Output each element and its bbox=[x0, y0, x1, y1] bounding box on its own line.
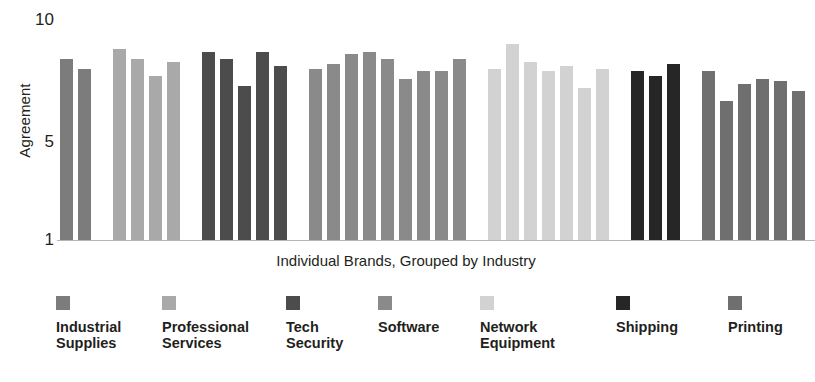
x-axis-title: Individual Brands, Grouped by Industry bbox=[0, 252, 812, 269]
legend-item[interactable]: Industrial Supplies bbox=[56, 296, 121, 351]
bar bbox=[345, 54, 358, 240]
bar bbox=[702, 71, 715, 240]
legend-color-swatch bbox=[56, 296, 70, 310]
bar bbox=[309, 69, 322, 240]
bar bbox=[238, 86, 251, 240]
legend-color-swatch bbox=[616, 296, 630, 310]
bar bbox=[220, 59, 233, 240]
y-tick-label-5: 5 bbox=[28, 132, 54, 152]
bar bbox=[756, 79, 769, 240]
bar bbox=[453, 59, 466, 240]
bar bbox=[774, 81, 787, 240]
legend-color-swatch bbox=[286, 296, 300, 310]
legend-item[interactable]: Professional Services bbox=[162, 296, 249, 351]
bar bbox=[202, 52, 215, 240]
x-axis-baseline bbox=[57, 240, 815, 241]
legend-item[interactable]: Printing bbox=[728, 296, 783, 335]
legend-item-label: Shipping bbox=[616, 319, 678, 335]
y-tick-label-10: 10 bbox=[28, 10, 54, 30]
bar bbox=[488, 69, 501, 240]
bar bbox=[560, 66, 573, 240]
legend-item-label: Software bbox=[378, 319, 439, 335]
legend-item-label: Printing bbox=[728, 319, 783, 335]
plot-area bbox=[60, 20, 812, 240]
bar bbox=[596, 69, 609, 240]
bar bbox=[792, 91, 805, 240]
bar bbox=[506, 44, 519, 240]
bar bbox=[363, 52, 376, 240]
legend-item[interactable]: Network Equipment bbox=[480, 296, 555, 351]
bar bbox=[524, 62, 537, 240]
bar bbox=[256, 52, 269, 240]
bar bbox=[131, 59, 144, 240]
bar bbox=[327, 64, 340, 240]
bar bbox=[542, 71, 555, 240]
bar bbox=[399, 79, 412, 240]
bar bbox=[274, 66, 287, 240]
bar bbox=[578, 88, 591, 240]
bar bbox=[78, 69, 91, 240]
bar bbox=[167, 62, 180, 240]
legend-color-swatch bbox=[480, 296, 494, 310]
chart-legend: Industrial SuppliesProfessional Services… bbox=[56, 296, 812, 376]
legend-item-label: Tech Security bbox=[286, 319, 343, 351]
bar bbox=[667, 64, 680, 240]
y-axis-title: Agreement bbox=[10, 0, 38, 240]
legend-item-label: Professional Services bbox=[162, 319, 249, 351]
bar bbox=[381, 59, 394, 240]
legend-item[interactable]: Software bbox=[378, 296, 439, 335]
legend-color-swatch bbox=[162, 296, 176, 310]
bar bbox=[738, 84, 751, 240]
legend-item-label: Network Equipment bbox=[480, 319, 555, 351]
legend-color-swatch bbox=[378, 296, 392, 310]
bar bbox=[435, 71, 448, 240]
legend-item[interactable]: Shipping bbox=[616, 296, 678, 335]
bar bbox=[60, 59, 73, 240]
bar bbox=[720, 101, 733, 240]
bar bbox=[649, 76, 662, 240]
bar bbox=[417, 71, 430, 240]
y-tick-label-1: 1 bbox=[28, 230, 54, 250]
legend-item-label: Industrial Supplies bbox=[56, 319, 121, 351]
bar bbox=[149, 76, 162, 240]
legend-color-swatch bbox=[728, 296, 742, 310]
bar bbox=[113, 49, 126, 240]
bar bbox=[631, 71, 644, 240]
legend-item[interactable]: Tech Security bbox=[286, 296, 343, 351]
